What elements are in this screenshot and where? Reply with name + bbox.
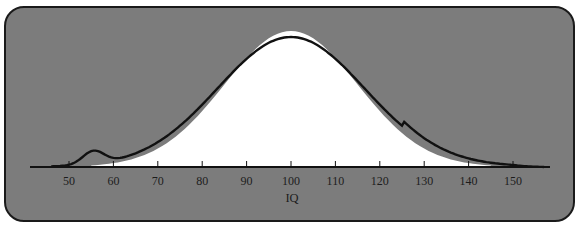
x-tick-label: 60 — [107, 174, 119, 188]
x-tick-label: 70 — [152, 174, 164, 188]
x-tick-label: 90 — [241, 174, 253, 188]
x-tick-label: 130 — [415, 174, 433, 188]
x-tick-label: 100 — [282, 174, 300, 188]
x-tick-label: 110 — [327, 174, 345, 188]
x-tick-label: 50 — [63, 174, 75, 188]
iq-distribution-chart: 5060708090100110120130140150 IQ — [0, 0, 584, 228]
x-tick-label: 150 — [504, 174, 522, 188]
x-tick-label: 120 — [371, 174, 389, 188]
x-axis-title: IQ — [285, 191, 298, 205]
x-tick-label: 80 — [196, 174, 208, 188]
x-tick-label: 140 — [460, 174, 478, 188]
